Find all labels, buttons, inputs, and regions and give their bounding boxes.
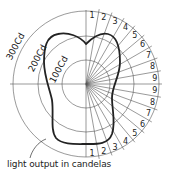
angle-label: 4 <box>123 137 128 146</box>
angle-label: 5 <box>132 129 137 138</box>
angle-label: 1 <box>89 149 94 158</box>
angle-label: 9 <box>152 86 157 95</box>
angle-label: 8 <box>150 62 155 71</box>
angle-label: 3 <box>113 17 118 26</box>
angle-label: 3 <box>113 143 118 152</box>
angle-label: 2 <box>101 147 106 156</box>
angle-label: 8 <box>150 98 155 107</box>
polar-grid <box>10 9 162 159</box>
caption-pointer-arrow <box>30 139 46 158</box>
polar-light-distribution-diagram: 123456789987654321 100Cd200Cd300Cd <box>0 0 170 173</box>
caption-light-output: light output in candelas <box>7 159 111 169</box>
angle-label: 9 <box>152 74 157 83</box>
angle-label: 5 <box>132 31 137 40</box>
light-distribution-curve <box>44 33 120 144</box>
ring-label: 100Cd <box>47 54 70 84</box>
angle-label: 7 <box>146 109 151 118</box>
ring-labels: 100Cd200Cd300Cd <box>4 31 70 84</box>
angle-label: 7 <box>146 51 151 60</box>
angle-label: 6 <box>140 40 145 49</box>
angle-label: 6 <box>140 120 145 129</box>
angle-label: 2 <box>101 13 106 22</box>
angle-label: 1 <box>89 11 94 20</box>
angle-label: 4 <box>123 23 128 32</box>
angle-labels: 123456789987654321 <box>89 11 157 157</box>
